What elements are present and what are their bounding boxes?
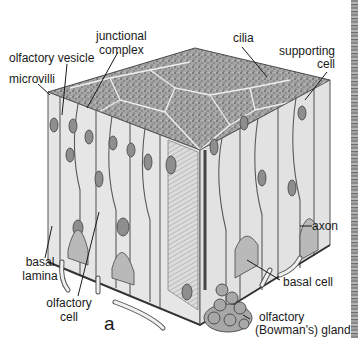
label-supporting-line1: supporting — [279, 45, 335, 57]
label-supporting-cell: supporting cell — [279, 45, 335, 70]
label-supporting-line2: cell — [279, 58, 335, 70]
label-junctional-complex: junctional complex — [96, 30, 147, 56]
label-olfactory-cell-line1: olfactory — [44, 297, 94, 309]
label-bowmans-gland: olfactory (Bowman's) gland — [258, 311, 351, 336]
label-junctional-line1: junctional — [96, 30, 147, 42]
scanned-page-edge — [351, 0, 358, 338]
label-basal-lamina: basal lamina — [20, 256, 60, 282]
label-olfactory-vesicle: olfactory vesicle — [9, 52, 94, 64]
label-gland-line1: olfactory — [258, 311, 351, 323]
label-junctional-line2: complex — [96, 44, 147, 56]
label-cilia: cilia — [233, 32, 254, 44]
label-axon: axon — [312, 220, 338, 232]
label-basal-lamina-line1: basal — [20, 256, 60, 268]
label-gland-line2: (Bowman's) gland — [255, 324, 351, 336]
label-microvilli: microvilli — [9, 73, 55, 85]
label-olfactory-cell-line2: cell — [44, 311, 94, 323]
panel-letter: a — [104, 313, 115, 335]
label-basal-lamina-line2: lamina — [20, 270, 60, 282]
label-basal-cell: basal cell — [283, 276, 333, 288]
label-olfactory-cell: olfactory cell — [44, 297, 94, 323]
